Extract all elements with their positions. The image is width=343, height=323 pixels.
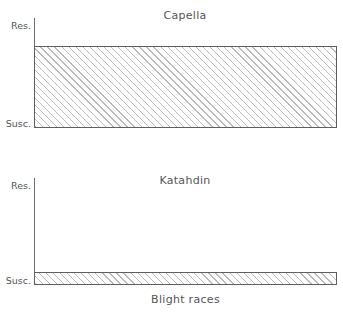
- resistance-bar-capella: [34, 46, 337, 128]
- y-axis-tick-susceptible-capella: Susc.: [1, 118, 31, 129]
- resistance-bar-katahdin: [34, 272, 337, 285]
- y-axis-tick-resistant-katahdin: Res.: [1, 180, 31, 191]
- chart-panel-katahdin: Katahdin Res. Susc. Blight races: [0, 160, 343, 323]
- x-axis-label: Blight races: [34, 293, 337, 306]
- chart-panel-capella: Capella Res. Susc.: [0, 0, 343, 150]
- chart-title-katahdin: Katahdin: [34, 174, 336, 187]
- chart-title-capella: Capella: [34, 9, 336, 22]
- y-axis-line-katahdin: [34, 178, 35, 285]
- blight-resistance-figure: Capella Res. Susc. Katahdin Res. Susc. B…: [0, 0, 343, 323]
- y-axis-tick-resistant-capella: Res.: [1, 20, 31, 31]
- y-axis-tick-susceptible-katahdin: Susc.: [1, 275, 31, 286]
